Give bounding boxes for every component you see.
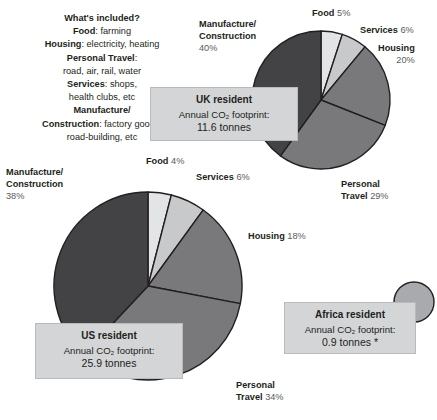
infographic-canvas: What's included? Food: farming Housing: … — [0, 0, 437, 420]
uk-label-food-name: Food — [312, 8, 334, 18]
key-term-travel: Personal Travel — [67, 53, 135, 63]
us-label-services-name: Services — [196, 172, 234, 182]
key-term-manufacture: Manufacture/ — [73, 105, 130, 115]
key-desc-travel: : — [135, 53, 138, 63]
uk-label-manufacture-pct: 40% — [199, 43, 217, 53]
us-label-housing: Housing 18% — [248, 231, 306, 243]
us-label-travel-name: Personal — [236, 380, 275, 390]
us-label-manufacture-name2: Construction — [6, 179, 63, 189]
us-label-services-pct: 6% — [236, 172, 249, 182]
key-line-food: Food: farming — [4, 25, 200, 38]
key-desc-services: : shops, — [105, 79, 137, 89]
us-label-food-name: Food — [146, 156, 168, 166]
key-line-travel: Personal Travel: — [4, 52, 200, 65]
uk-label-services-name: Services — [360, 25, 398, 35]
us-callout-box: US resident Annual CO₂ footprint: 25.9 t… — [35, 323, 183, 379]
us-label-manufacture-pct: 38% — [6, 191, 24, 201]
us-label-food: Food 4% — [146, 156, 184, 168]
us-label-manufacture: Manufacture/ Construction 38% — [6, 166, 63, 202]
uk-callout-title: UK resident — [157, 93, 291, 107]
us-label-services: Services 6% — [196, 172, 250, 184]
key-desc-housing: : electricity, heating — [81, 39, 159, 49]
key-term-services: Services — [67, 79, 105, 89]
africa-callout-line3: 0.9 tonnes * — [291, 336, 409, 350]
uk-label-food-pct: 5% — [337, 8, 350, 18]
key-desc-food: : farming — [95, 26, 131, 36]
uk-label-housing: Housing 20% — [378, 42, 415, 66]
uk-label-services-pct: 6% — [400, 25, 413, 35]
uk-label-travel-name2: Travel — [341, 191, 368, 201]
key-heading: What's included? — [4, 12, 200, 25]
uk-label-manufacture-name: Manufacture/ — [199, 19, 256, 29]
key-line-travel-cont: road, air, rail, water — [4, 65, 200, 78]
us-label-housing-name: Housing — [248, 231, 285, 241]
key-term-food: Food — [73, 26, 95, 36]
key-line-housing: Housing: electricity, heating — [4, 38, 200, 51]
us-callout-line3: 25.9 tonnes — [42, 357, 176, 371]
uk-label-travel-pct: 29% — [370, 191, 388, 201]
key-desc-construction-cont: road-building, etc — [67, 132, 137, 142]
uk-label-food: Food 5% — [312, 8, 350, 20]
us-label-manufacture-name: Manufacture/ — [6, 167, 63, 177]
uk-label-travel-name: Personal — [341, 179, 380, 189]
uk-callout-box: UK resident Annual CO₂ footprint: 11.6 t… — [150, 87, 298, 141]
key-desc-travel-cont: road, air, rail, water — [63, 66, 141, 76]
us-label-travel: Personal Travel 34% — [236, 379, 284, 403]
us-label-travel-name2: Travel — [236, 392, 263, 402]
us-callout-line2: Annual CO₂ footprint: — [42, 344, 176, 358]
africa-callout-box: Africa resident Annual CO₂ footprint: 0.… — [284, 302, 416, 354]
key-term-housing: Housing — [45, 39, 82, 49]
uk-label-housing-pct: 20% — [378, 54, 415, 66]
uk-label-services: Services 6% — [360, 25, 414, 37]
uk-label-housing-name: Housing — [378, 43, 415, 53]
us-callout-title: US resident — [42, 329, 176, 343]
uk-label-manufacture: Manufacture/ Construction 40% — [199, 18, 256, 54]
africa-callout-line2: Annual CO₂ footprint: — [291, 323, 409, 337]
key-term-construction: Construction — [42, 119, 99, 129]
key-desc-services-cont: health clubs, etc — [69, 92, 135, 102]
key-heading-text: What's included? — [64, 13, 140, 23]
us-label-housing-pct: 18% — [287, 231, 305, 241]
uk-label-manufacture-name2: Construction — [199, 31, 256, 41]
uk-label-travel: Personal Travel 29% — [341, 178, 389, 202]
uk-callout-line2: Annual CO₂ footprint: — [157, 108, 291, 122]
us-label-food-pct: 4% — [171, 156, 184, 166]
us-label-travel-pct: 34% — [265, 392, 283, 402]
uk-callout-line3: 11.6 tonnes — [157, 121, 291, 135]
africa-callout-title: Africa resident — [291, 308, 409, 322]
